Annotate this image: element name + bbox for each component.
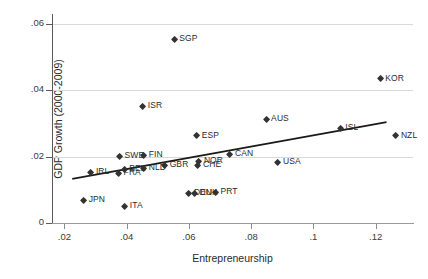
chart-figure: GDP Growth (2000-2009) 0.02.04.06 .02.04… xyxy=(0,0,428,279)
point-label: ITA xyxy=(130,200,143,210)
point-label: FIN xyxy=(149,149,163,159)
point-label: JPN xyxy=(89,194,105,204)
point-label: SGP xyxy=(179,33,197,43)
point-label: ISR xyxy=(148,100,162,110)
point-label: DNK xyxy=(200,187,218,197)
point-label: CAN xyxy=(235,148,253,158)
plot-region: 0.02.04.06 .02.04.06.08.1.12 SGPKORISRAU… xyxy=(0,0,428,279)
point-label: ESP xyxy=(202,130,219,140)
point-label: CHE xyxy=(203,159,221,169)
point-label: GBR xyxy=(170,159,189,169)
point-label: NZL xyxy=(401,130,417,140)
x-axis-label: Entrepreneurship xyxy=(52,252,413,264)
point-label: AUS xyxy=(271,113,289,123)
point-label: KOR xyxy=(385,73,404,83)
point-label: USA xyxy=(283,156,301,166)
point-label: IRL xyxy=(96,166,110,176)
point-label: PRT xyxy=(220,186,237,196)
point-label: NLD xyxy=(149,162,166,172)
point-label: ISL xyxy=(345,122,358,132)
point-label: FRA xyxy=(124,167,141,177)
